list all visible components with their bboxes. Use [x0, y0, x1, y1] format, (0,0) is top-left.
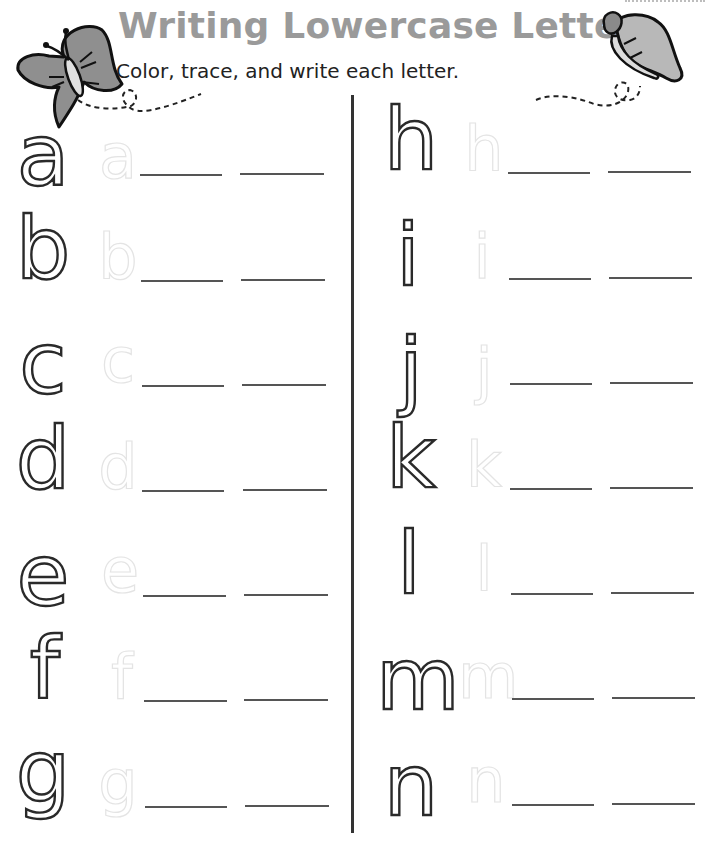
model-letter: b	[8, 205, 78, 315]
write-line[interactable]	[511, 593, 593, 595]
model-letter: m	[376, 636, 452, 746]
model-letter: k	[376, 414, 446, 524]
write-line[interactable]	[244, 594, 328, 596]
write-line[interactable]	[612, 803, 695, 805]
trace-letter[interactable]: i	[452, 226, 512, 288]
trace-letter[interactable]: f	[92, 646, 152, 708]
trace-letter[interactable]: e	[90, 540, 150, 602]
page-title: Writing Lowercase Letters	[118, 6, 658, 46]
trace-letter[interactable]: k	[454, 434, 514, 496]
trace-letter[interactable]: n	[456, 750, 516, 812]
write-line[interactable]	[608, 171, 691, 173]
model-letter: g	[8, 728, 78, 838]
write-line[interactable]	[142, 385, 224, 387]
write-line[interactable]	[610, 487, 693, 489]
write-line[interactable]	[143, 595, 226, 597]
trace-letter[interactable]: b	[88, 226, 148, 288]
trace-letter[interactable]: c	[88, 330, 148, 392]
model-letter: d	[8, 415, 78, 525]
write-line[interactable]	[512, 804, 594, 806]
write-line[interactable]	[612, 697, 695, 699]
butterfly-icon	[596, 10, 686, 85]
write-line[interactable]	[141, 280, 223, 282]
write-line[interactable]	[240, 173, 324, 175]
write-line[interactable]	[244, 699, 328, 701]
model-letter: l	[374, 520, 444, 630]
model-letter: f	[10, 625, 80, 735]
write-line[interactable]	[509, 278, 591, 280]
trace-letter[interactable]: d	[88, 436, 148, 498]
write-line[interactable]	[242, 384, 326, 386]
write-line[interactable]	[241, 279, 325, 281]
write-line[interactable]	[243, 489, 327, 491]
write-line[interactable]	[508, 172, 590, 174]
model-letter: n	[376, 742, 446, 852]
trace-letter[interactable]: m	[458, 646, 518, 708]
write-line[interactable]	[512, 698, 594, 700]
write-line[interactable]	[611, 592, 694, 594]
write-line[interactable]	[510, 488, 592, 490]
write-line[interactable]	[142, 490, 224, 492]
write-line[interactable]	[610, 382, 693, 384]
write-line[interactable]	[145, 806, 227, 808]
write-line[interactable]	[510, 383, 592, 385]
page-subtitle: Color, trace, and write each letter.	[116, 58, 459, 84]
write-line[interactable]	[144, 700, 227, 702]
flight-path-dashed	[534, 76, 644, 108]
trace-letter[interactable]: l	[454, 538, 514, 600]
write-line[interactable]	[140, 174, 222, 176]
trace-letter[interactable]: j	[454, 340, 514, 402]
model-letter: i	[373, 212, 443, 322]
write-line[interactable]	[245, 805, 329, 807]
write-line[interactable]	[609, 277, 692, 279]
trace-letter[interactable]: a	[88, 126, 148, 188]
flight-path-dashed	[76, 88, 216, 120]
model-letter: h	[376, 96, 446, 206]
column-divider	[351, 95, 354, 833]
trace-letter[interactable]: h	[454, 118, 514, 180]
trace-letter[interactable]: g	[88, 752, 148, 814]
